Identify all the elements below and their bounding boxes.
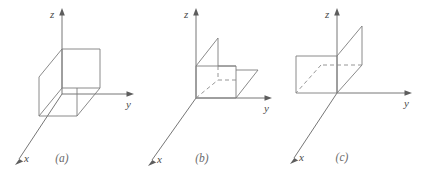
y-axis-label: y	[125, 98, 131, 110]
y-axis-label: y	[263, 102, 269, 114]
y-axis-arrowhead	[265, 95, 273, 101]
cube-edge-top-left	[39, 49, 62, 77]
z-axis-label: z	[49, 8, 55, 20]
cube-front-face	[39, 77, 77, 116]
y-axis-arrowhead	[127, 91, 135, 97]
z-axis-label: z	[183, 8, 189, 20]
x-axis-line	[19, 94, 62, 159]
z-axis-label: z	[324, 8, 330, 20]
x-axis-arrowhead	[290, 158, 298, 164]
panel-a: z y x (a)	[0, 0, 142, 180]
hidden-edge-diagonal	[296, 65, 321, 93]
x-axis-label: x	[298, 151, 304, 163]
x-axis-label: x	[156, 153, 162, 165]
x-axis-line	[152, 98, 196, 160]
figure-container: z y x (a) z	[0, 0, 425, 180]
region-right-parallelogram	[337, 26, 362, 93]
panel-c: z y x (c)	[280, 0, 425, 180]
panel-caption-c: (c)	[336, 151, 349, 164]
x-axis-arrowhead	[15, 159, 23, 165]
x-axis-line	[294, 93, 337, 158]
x-axis-label: x	[23, 152, 29, 164]
z-axis-arrowhead	[193, 8, 199, 16]
panel-b-diagram: z y x (b)	[140, 0, 285, 180]
y-axis-label: y	[403, 97, 409, 109]
panel-b: z y x (b)	[140, 0, 285, 180]
panel-a-diagram: z y x (a)	[0, 0, 142, 180]
cube-edge-bottom-right	[77, 88, 100, 116]
panel-c-diagram: z y x (c)	[280, 0, 425, 180]
z-axis-arrowhead	[334, 8, 340, 16]
x-axis-arrowhead	[148, 160, 156, 166]
step-right-parallelogram	[236, 70, 258, 98]
hidden-edge-diagonal	[196, 80, 218, 98]
cube-back-face	[62, 49, 100, 88]
panel-caption-a: (a)	[55, 152, 69, 165]
region-left-rectangle	[296, 56, 337, 93]
step-upper-left-triangle	[196, 38, 218, 66]
z-axis-arrowhead	[59, 8, 65, 16]
y-axis-arrowhead	[405, 90, 413, 96]
panel-caption-b: (b)	[195, 152, 209, 165]
